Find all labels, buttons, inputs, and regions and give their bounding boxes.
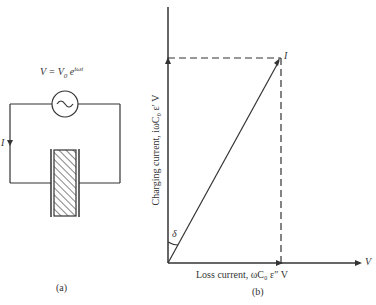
current-label-a: I [1,137,4,148]
phasor-diagram-b [165,7,362,266]
angle-label: δ [172,228,177,239]
loss-arrow-icon [276,260,283,266]
angle-arc [168,242,178,245]
caption-b: (b) [252,286,264,297]
y-axis-label: Charging current, iωC₀ ε′ V [150,95,161,206]
x-end-label: V [365,256,371,267]
caption-a: (a) [56,282,67,293]
diagram-canvas [0,0,376,305]
x-axis-label: Loss current, ωC₀ ε″ V [196,269,288,280]
point-label: I [284,50,287,61]
x-axis-arrow-icon [355,260,362,266]
current-vector [168,61,279,263]
circuit-a [7,91,120,217]
current-arrow-icon [7,140,13,146]
source-label: V = V0 eiωt [40,65,83,80]
dielectric-icon [54,150,76,216]
